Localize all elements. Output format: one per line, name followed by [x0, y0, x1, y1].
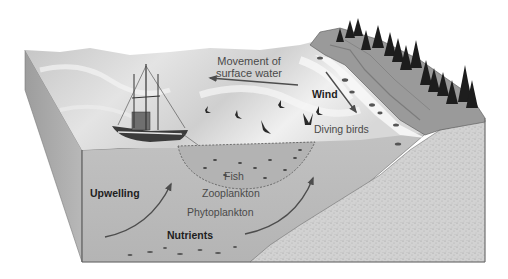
label-zooplankton: Zooplankton [202, 188, 260, 199]
label-fish: Fish [224, 171, 244, 182]
label-upwelling: Upwelling [90, 188, 140, 199]
label-wind: Wind [312, 89, 338, 100]
label-movement-surface-water: Movement of surface water [216, 56, 282, 79]
label-nutrients: Nutrients [167, 230, 213, 241]
diagram-illustration [0, 0, 508, 279]
label-diving-birds: Diving birds [314, 124, 369, 135]
label-phytoplankton: Phytoplankton [187, 207, 254, 218]
upwelling-diagram: Movement of surface water Wind Diving bi… [0, 0, 508, 279]
